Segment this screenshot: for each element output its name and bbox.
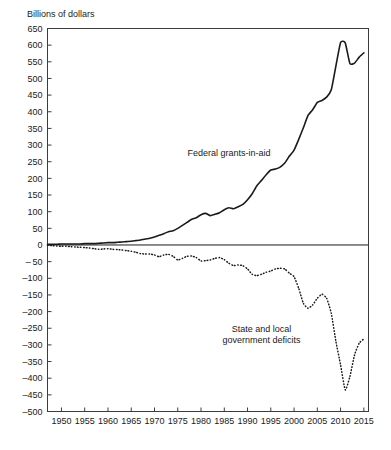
x-tick-label: 2005 <box>307 416 327 426</box>
y-tick-label: –100 <box>22 273 42 283</box>
x-tick-label: 2010 <box>331 416 351 426</box>
y-tick-label: 450 <box>27 90 42 100</box>
series-state-local-deficits <box>48 245 364 390</box>
chart-plot-area: Federal grants-in-aidState and localgove… <box>0 0 391 450</box>
y-tick-label: 250 <box>27 157 42 167</box>
series-federal-grants-in-aid <box>48 41 364 244</box>
x-tick-label: 1995 <box>261 416 281 426</box>
y-tick-label: 200 <box>27 174 42 184</box>
y-axis-tick-labels: 650600550500450400350300250200150100500–… <box>22 24 42 417</box>
x-tick-label: 1990 <box>238 416 258 426</box>
y-tick-label: 50 <box>32 224 42 234</box>
y-tick-label: 500 <box>27 74 42 84</box>
y-tick-label: –150 <box>22 290 42 300</box>
series-label: Federal grants-in-aid <box>187 148 270 158</box>
x-tick-label: 1980 <box>191 416 211 426</box>
y-tick-label: –200 <box>22 307 42 317</box>
x-tick-label: 2000 <box>284 416 304 426</box>
plot-frame <box>48 29 369 412</box>
series-label: government deficits <box>222 335 301 345</box>
chart-figure: Billions of dollars Federal grants-in-ai… <box>0 0 391 450</box>
y-tick-label: 550 <box>27 57 42 67</box>
x-tick-label: 1975 <box>168 416 188 426</box>
y-tick-label: 300 <box>27 140 42 150</box>
y-tick-label: 400 <box>27 107 42 117</box>
x-tick-label: 1965 <box>121 416 141 426</box>
series-label: State and local <box>232 324 292 334</box>
y-tick-label: – 50 <box>26 257 43 267</box>
y-tick-label: –350 <box>22 357 42 367</box>
series-annotations: Federal grants-in-aidState and localgove… <box>187 148 301 346</box>
y-tick-label: –450 <box>22 390 42 400</box>
y-tick-label: –300 <box>22 340 42 350</box>
x-axis-ticks <box>61 408 363 412</box>
y-axis-ticks <box>48 29 52 412</box>
x-tick-label: 1960 <box>98 416 118 426</box>
y-tick-label: –400 <box>22 373 42 383</box>
y-tick-label: 150 <box>27 190 42 200</box>
x-tick-label: 2015 <box>354 416 374 426</box>
x-tick-label: 1985 <box>214 416 234 426</box>
y-tick-label: 600 <box>27 40 42 50</box>
x-tick-label: 1955 <box>75 416 95 426</box>
x-axis-tick-labels: 1950195519601965197019751980198519901995… <box>51 416 373 426</box>
y-tick-label: 650 <box>27 24 42 34</box>
y-tick-label: –250 <box>22 323 42 333</box>
y-tick-label: –500 <box>22 407 42 417</box>
y-tick-label: 100 <box>27 207 42 217</box>
y-tick-label: 350 <box>27 124 42 134</box>
x-tick-label: 1950 <box>51 416 71 426</box>
y-tick-label: 0 <box>37 240 42 250</box>
x-tick-label: 1970 <box>144 416 164 426</box>
